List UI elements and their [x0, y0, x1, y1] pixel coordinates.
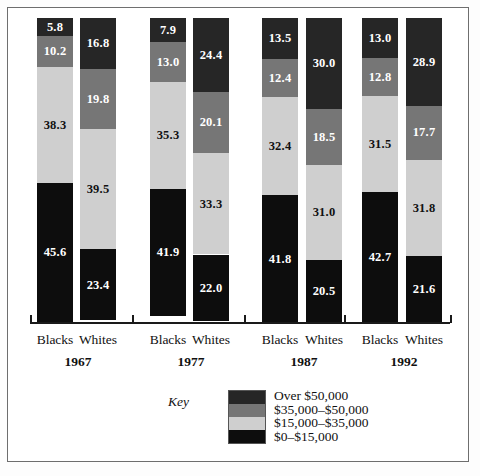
segment-value-label: 12.4	[269, 72, 292, 85]
bar-segment[interactable]: 20.5	[306, 260, 342, 322]
segment-value-label: 21.6	[413, 283, 436, 296]
segment-value-label: 18.5	[313, 131, 336, 144]
legend-swatch-band	[229, 391, 265, 404]
bar-blacks-1967[interactable]: 5.810.238.345.6	[37, 18, 73, 322]
bar-blacks-1977[interactable]: 7.913.035.341.9	[150, 18, 186, 322]
legend-entry-label: $0–$15,000	[274, 430, 369, 444]
segment-value-label: 41.9	[157, 246, 180, 259]
axis-tick	[344, 315, 346, 323]
segment-value-label: 5.8	[47, 21, 63, 34]
segment-value-label: 20.1	[200, 116, 223, 129]
segment-value-label: 30.0	[313, 57, 336, 70]
bar-segment[interactable]: 13.5	[262, 18, 298, 59]
bar-segment[interactable]: 28.9	[406, 18, 442, 106]
segment-value-label: 23.4	[87, 279, 110, 292]
bar-segment[interactable]: 22.0	[193, 255, 229, 322]
bar-segment[interactable]: 5.8	[37, 18, 73, 36]
category-label-whites: Whites	[396, 332, 452, 348]
bar-segment[interactable]: 19.8	[80, 69, 116, 129]
segment-value-label: 38.3	[44, 119, 67, 132]
bar-segment[interactable]: 31.8	[406, 160, 442, 257]
bar-segment[interactable]: 23.4	[80, 249, 116, 320]
segment-value-label: 35.3	[157, 129, 180, 142]
bar-segment[interactable]: 21.6	[406, 256, 442, 322]
segment-value-label: 22.0	[200, 282, 223, 295]
bar-segment[interactable]: 31.5	[362, 96, 398, 192]
segment-value-label: 19.8	[87, 93, 110, 106]
bar-segment[interactable]: 16.8	[80, 18, 116, 69]
segment-value-label: 20.5	[313, 285, 336, 298]
segment-value-label: 10.2	[44, 45, 67, 58]
bar-whites-1992[interactable]: 28.917.731.821.6	[406, 18, 442, 322]
category-label-whites: Whites	[296, 332, 352, 348]
legend-labels: Over $50,000$35,000–$50,000$15,000–$35,0…	[274, 389, 369, 443]
legend-entry-label: $35,000–$50,000	[274, 403, 369, 417]
bar-whites-1987[interactable]: 30.018.531.020.5	[306, 18, 342, 322]
bar-segment[interactable]: 41.9	[150, 189, 186, 316]
bar-segment[interactable]: 45.6	[37, 183, 73, 322]
bar-segment[interactable]: 17.7	[406, 106, 442, 160]
axis-tick	[30, 315, 32, 323]
bar-segment[interactable]: 13.0	[362, 18, 398, 58]
bar-segment[interactable]: 38.3	[37, 67, 73, 183]
bar-segment[interactable]: 24.4	[193, 18, 229, 92]
bar-segment[interactable]: 41.8	[262, 195, 298, 322]
category-label-whites: Whites	[70, 332, 126, 348]
segment-value-label: 39.5	[87, 183, 110, 196]
bar-segment[interactable]: 12.4	[262, 59, 298, 97]
axis-tick	[244, 315, 246, 323]
bar-segment[interactable]: 18.5	[306, 109, 342, 165]
bar-segment[interactable]: 35.3	[150, 82, 186, 189]
segment-value-label: 7.9	[160, 24, 176, 37]
bar-segment[interactable]: 42.7	[362, 192, 398, 322]
bar-segment[interactable]: 31.0	[306, 165, 342, 259]
bar-blacks-1987[interactable]: 13.512.432.441.8	[262, 18, 298, 322]
segment-value-label: 45.6	[44, 246, 67, 259]
segment-value-label: 31.8	[413, 202, 436, 215]
segment-value-label: 42.7	[369, 251, 392, 264]
year-label-1967: 1967	[18, 354, 138, 370]
bar-segment[interactable]: 20.1	[193, 92, 229, 153]
bar-segment[interactable]: 12.8	[362, 58, 398, 97]
year-label-1977: 1977	[131, 354, 251, 370]
segment-value-label: 16.8	[87, 37, 110, 50]
bar-blacks-1992[interactable]: 13.012.831.542.7	[362, 18, 398, 322]
bar-segment[interactable]: 33.3	[193, 153, 229, 254]
segment-value-label: 41.8	[269, 253, 292, 266]
bar-segment[interactable]: 13.0	[150, 42, 186, 82]
axis-tick	[450, 315, 452, 323]
legend-entry-label: Over $50,000	[274, 389, 369, 403]
segment-value-label: 13.0	[369, 32, 392, 45]
segment-value-label: 13.0	[157, 56, 180, 69]
legend-swatch	[228, 390, 266, 444]
legend-swatch-band	[229, 417, 265, 430]
category-label-whites: Whites	[183, 332, 239, 348]
bar-segment[interactable]: 39.5	[80, 129, 116, 249]
segment-value-label: 33.3	[200, 198, 223, 211]
segment-value-label: 24.4	[200, 49, 223, 62]
legend-swatch-band	[229, 430, 265, 443]
bar-whites-1977[interactable]: 24.420.133.322.0	[193, 18, 229, 322]
legend-entry-label: $15,000–$35,000	[274, 416, 369, 430]
segment-value-label: 28.9	[413, 56, 436, 69]
legend-swatch-band	[229, 404, 265, 417]
bar-whites-1967[interactable]: 16.819.839.523.4	[80, 18, 116, 322]
bar-segment[interactable]: 10.2	[37, 36, 73, 67]
bar-segment[interactable]: 7.9	[150, 18, 186, 42]
segment-value-label: 12.8	[369, 71, 392, 84]
segment-value-label: 17.7	[413, 126, 436, 139]
segment-value-label: 31.5	[369, 138, 392, 151]
axis-tick	[132, 315, 134, 323]
bar-segment[interactable]: 30.0	[306, 18, 342, 109]
segment-value-label: 31.0	[313, 206, 336, 219]
x-axis-line	[30, 322, 450, 324]
figure-canvas: 5.810.238.345.616.819.839.523.47.913.035…	[0, 0, 480, 476]
bar-segment[interactable]: 32.4	[262, 97, 298, 195]
legend-title: Key	[168, 394, 189, 410]
segment-value-label: 13.5	[269, 32, 292, 45]
year-label-1992: 1992	[344, 354, 464, 370]
stacked-bar-chart: 5.810.238.345.616.819.839.523.47.913.035…	[0, 0, 480, 476]
segment-value-label: 32.4	[269, 140, 292, 153]
